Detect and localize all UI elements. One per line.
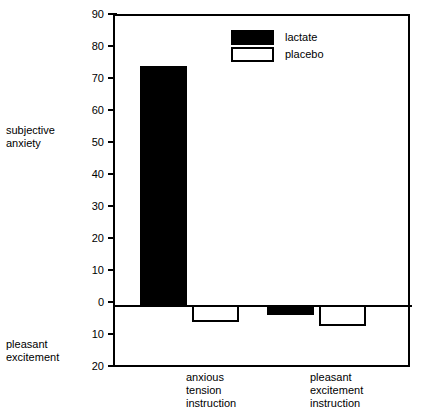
legend-label-placebo: placebo — [285, 48, 324, 61]
y-tick-label-neg10: 10 — [78, 329, 104, 340]
y-tick-label-80: 80 — [78, 41, 104, 52]
y-tick-label-70: 70 — [78, 73, 104, 84]
y-tick-label-40: 40 — [78, 169, 104, 180]
bar-lactate-anxious-tension — [140, 66, 187, 307]
y-tick-label-60: 60 — [78, 105, 104, 116]
bar-placebo-anxious-tension — [192, 305, 239, 322]
y-axis-upper-caption: subjective anxiety — [6, 124, 55, 150]
y-tick-label-30: 30 — [78, 201, 104, 212]
legend-swatch-lactate-icon — [231, 30, 274, 45]
legend-label-lactate: lactate — [285, 31, 317, 44]
plot-area: lactate placebo — [113, 14, 410, 367]
y-tick-label-90: 90 — [78, 9, 104, 20]
y-tick-label-10: 10 — [78, 265, 104, 276]
x-category-label-pleasant-excitement: pleasant excitement instruction — [310, 371, 363, 409]
y-axis-lower-caption: pleasant excitement — [6, 338, 59, 364]
y-tick-label-0: 0 — [78, 297, 104, 308]
x-category-label-anxious-tension: anxious tension instruction — [186, 371, 236, 409]
y-tick-label-20: 20 — [78, 233, 104, 244]
bar-placebo-pleasant-excitement — [319, 305, 366, 326]
bar-lactate-pleasant-excitement — [267, 305, 314, 315]
bar-chart-figure: 90 80 70 60 50 40 30 20 10 0 10 20 subje… — [0, 0, 425, 409]
y-tick-label-50: 50 — [78, 137, 104, 148]
legend-swatch-placebo-icon — [231, 47, 274, 62]
y-tick-label-neg20: 20 — [78, 361, 104, 372]
